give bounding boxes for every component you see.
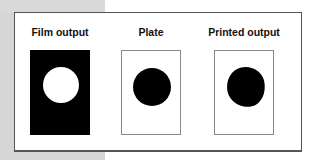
film-output-panel [30, 50, 90, 135]
label-film-output: Film output [24, 26, 96, 38]
label-printed-output: Printed output [199, 26, 289, 38]
printed-output-panel [214, 50, 274, 135]
background-gray-top [0, 0, 105, 12]
label-plate: Plate [121, 26, 181, 38]
plate-panel [121, 50, 181, 135]
plate-black-circle [133, 68, 171, 106]
film-clear-circle [43, 67, 79, 103]
printed-black-dot [223, 63, 268, 110]
